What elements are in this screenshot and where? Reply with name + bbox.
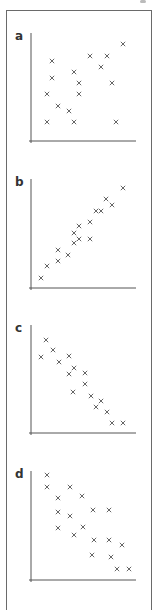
x-marker-icon [105, 54, 109, 58]
panel-label: d [15, 467, 24, 481]
x-marker-icon [104, 197, 108, 201]
x-marker-icon [72, 120, 76, 124]
x-marker-icon [45, 92, 49, 96]
x-marker-icon [94, 209, 98, 213]
panel-label: b [15, 175, 24, 189]
x-marker-icon [83, 382, 87, 386]
x-marker-icon [66, 253, 70, 257]
panel-d: d [15, 467, 136, 582]
x-marker-icon [77, 81, 81, 85]
panel-a: a [15, 29, 136, 143]
x-marker-icon [72, 533, 76, 537]
x-marker-icon [99, 399, 103, 403]
x-marker-icon [81, 525, 85, 529]
x-marker-icon [45, 264, 49, 268]
x-marker-icon [68, 485, 72, 489]
x-marker-icon [99, 209, 103, 213]
x-marker-icon [94, 405, 98, 409]
x-marker-icon [127, 567, 131, 571]
x-marker-icon [89, 394, 93, 398]
x-marker-icon [56, 248, 60, 252]
x-marker-icon [110, 203, 114, 207]
x-marker-icon [107, 508, 111, 512]
x-marker-icon [88, 237, 92, 241]
x-marker-icon [57, 360, 61, 364]
x-marker-icon [56, 259, 60, 263]
x-marker-icon [91, 508, 95, 512]
x-marker-icon [56, 104, 60, 108]
x-marker-icon [56, 510, 60, 514]
x-marker-icon [72, 231, 76, 235]
x-marker-icon [72, 366, 76, 370]
x-marker-icon [39, 276, 43, 280]
x-marker-icon [72, 241, 76, 245]
x-marker-icon [77, 224, 81, 228]
x-marker-icon [80, 494, 84, 498]
x-marker-icon [45, 473, 49, 477]
x-marker-icon [71, 390, 75, 394]
x-marker-icon [68, 514, 72, 518]
x-marker-icon [50, 59, 54, 63]
x-marker-icon [90, 553, 94, 557]
x-marker-icon [44, 338, 48, 342]
x-marker-icon [39, 355, 43, 359]
x-marker-icon [109, 555, 113, 559]
x-marker-icon [105, 410, 109, 414]
x-marker-icon [45, 485, 49, 489]
x-marker-icon [121, 421, 125, 425]
x-marker-icon [67, 354, 71, 358]
x-marker-icon [88, 220, 92, 224]
x-marker-icon [50, 76, 54, 80]
x-marker-icon [77, 92, 81, 96]
x-marker-icon [115, 567, 119, 571]
x-marker-icon [107, 538, 111, 542]
x-marker-icon [67, 372, 71, 376]
x-marker-icon [72, 70, 76, 74]
x-marker-icon [56, 526, 60, 530]
x-marker-icon [110, 421, 114, 425]
x-marker-icon [77, 237, 81, 241]
x-marker-icon [114, 120, 118, 124]
x-marker-icon [56, 496, 60, 500]
x-marker-icon [45, 120, 49, 124]
x-marker-icon [99, 65, 103, 69]
x-marker-icon [120, 543, 124, 547]
x-marker-icon [110, 81, 114, 85]
x-marker-icon [51, 348, 55, 352]
panel-c: c [15, 321, 136, 435]
x-marker-icon [92, 538, 96, 542]
x-marker-icon [88, 54, 92, 58]
panel-label: a [15, 29, 23, 43]
x-marker-icon [83, 371, 87, 375]
x-marker-icon [121, 42, 125, 46]
panel-b: b [15, 175, 136, 290]
panel-label: c [15, 321, 22, 335]
x-marker-icon [121, 186, 125, 190]
x-marker-icon [67, 109, 71, 113]
